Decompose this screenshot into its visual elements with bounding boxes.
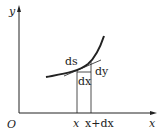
dx-label: dx xyxy=(78,75,92,88)
tick-x-dx-label: x+dx xyxy=(85,117,114,130)
y-axis-arrow-icon xyxy=(17,5,21,12)
y-axis-label: y xyxy=(8,5,16,18)
tick-x-label: x xyxy=(73,117,80,130)
arc-length-diagram: y x O ds dy dx x x+dx xyxy=(0,0,164,135)
x-axis-label: x xyxy=(149,117,156,130)
ds-label: ds xyxy=(65,55,78,68)
origin-label: O xyxy=(7,118,16,131)
dy-label: dy xyxy=(95,65,109,78)
x-axis-arrow-icon xyxy=(150,111,157,115)
